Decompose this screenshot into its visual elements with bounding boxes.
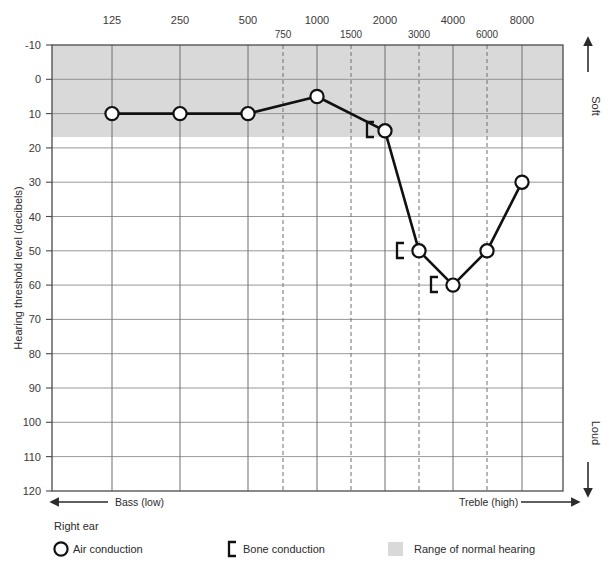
y-tick-labels: -10 0 10 20 30 40 50 60 70 80 90 100 110…: [23, 39, 41, 497]
y-tick-label: 80: [29, 348, 41, 360]
x-tick-label-2000: 2000: [373, 14, 397, 26]
y-tick-label: 90: [29, 382, 41, 394]
data-point-3000-50: [412, 244, 425, 257]
data-point-6000-50: [480, 244, 493, 257]
treble-label: Treble (high): [459, 496, 518, 508]
x-tick-label-500: 500: [239, 14, 257, 26]
x-tick-label-3000: 3000: [408, 29, 431, 40]
x-tick-label-6000: 6000: [476, 29, 499, 40]
data-point-500-10: [241, 107, 254, 120]
data-point-125-10: [105, 107, 118, 120]
chart-legend: Right ear Air conduction Bone conduction…: [54, 520, 535, 556]
x-tick-label-8000: 8000: [510, 14, 534, 26]
x-tick-label-4000: 4000: [441, 14, 465, 26]
normal-hearing-band: [52, 45, 563, 137]
x-axis-interoctave-labels: 750 1500 3000 6000: [275, 29, 499, 40]
frequency-direction-annotations: Bass (low) Treble (high): [58, 496, 572, 508]
legend-circle-marker-icon: [54, 542, 67, 555]
data-point-1000-5: [310, 90, 323, 103]
y-tick-label: 20: [29, 142, 41, 154]
data-point-4000-60: [446, 279, 459, 292]
y-tick-label: 30: [29, 176, 41, 188]
legend-label-air-conduction: Air conduction: [73, 543, 143, 555]
soft-label: Soft: [590, 96, 602, 116]
y-tick-label: 70: [29, 313, 41, 325]
data-point-250-10: [173, 107, 186, 120]
y-tick-label: 10: [29, 108, 41, 120]
y-tick-label: 0: [35, 73, 41, 85]
y-tick-label: 60: [29, 279, 41, 291]
loud-label: Loud: [590, 421, 602, 445]
legend-shaded-swatch-icon: [388, 542, 403, 556]
legend-label-bone-conduction: Bone conduction: [243, 543, 325, 555]
x-tick-label-125: 125: [103, 14, 121, 26]
x-axis-octave-labels: 125 250 500 1000 2000 4000 8000: [103, 14, 534, 26]
legend-heading: Right ear: [54, 520, 99, 532]
y-axis-title: Hearing threshold level (decibels): [12, 186, 24, 349]
legend-bracket-marker-icon: [229, 542, 236, 556]
y-tick-label: -10: [25, 39, 41, 51]
audiogram-chart: -10 0 10 20 30 40 50 60 70 80 90 100 110…: [0, 0, 611, 569]
y-tick-label: 120: [23, 485, 41, 497]
y-tick-label: 40: [29, 211, 41, 223]
data-point-2000-15: [378, 124, 391, 137]
y-tick-marks: [46, 45, 52, 491]
x-tick-label-750: 750: [275, 29, 292, 40]
x-tick-label-1500: 1500: [340, 29, 363, 40]
data-point-8000-30: [515, 176, 528, 189]
y-tick-label: 100: [23, 416, 41, 428]
y-tick-label: 50: [29, 245, 41, 257]
y-tick-label: 110: [23, 451, 41, 463]
loudness-direction-annotations: Soft Loud: [588, 45, 602, 489]
bass-label: Bass (low): [115, 496, 164, 508]
x-tick-label-250: 250: [171, 14, 189, 26]
legend-label-normal-hearing: Range of normal hearing: [414, 543, 535, 555]
x-tick-label-1000: 1000: [305, 14, 329, 26]
